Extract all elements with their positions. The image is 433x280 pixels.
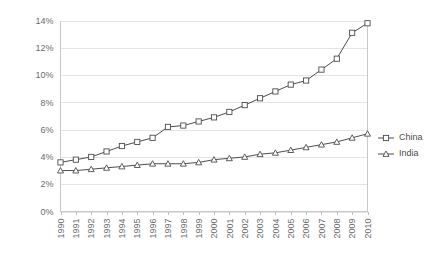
y-axis-tick-label: 0% [40, 207, 53, 217]
data-point-marker [196, 119, 201, 124]
y-axis-tick-label: 12% [35, 43, 53, 53]
data-point-marker [181, 123, 186, 128]
x-axis-tick-label: 1995 [132, 219, 142, 239]
x-axis-tick-label: 1990 [56, 219, 66, 239]
x-axis-tick-label: 2006 [301, 219, 311, 239]
data-point-marker [304, 78, 309, 83]
y-axis-tick-labels: 0%2%4%6%8%10%12%14% [35, 16, 53, 217]
data-series [58, 21, 371, 173]
data-point-marker [211, 115, 216, 120]
data-point-marker [257, 96, 262, 101]
x-axis-tick-label: 1998 [179, 219, 189, 239]
x-axis-tick-label: 1997 [163, 219, 173, 239]
data-point-marker [273, 89, 278, 94]
x-axis-tick-label: 1994 [117, 219, 127, 239]
legend-item-india[interactable]: India [378, 148, 419, 158]
x-axis-tick-label: 1991 [71, 219, 81, 239]
series-china [58, 21, 370, 165]
x-axis-tick-label: 2003 [255, 219, 265, 239]
data-point-marker [365, 21, 370, 26]
x-axis-tick-label: 1993 [102, 219, 112, 239]
data-point-marker [365, 131, 371, 136]
x-axis-tick-label: 1999 [194, 219, 204, 239]
legend-marker-swatch [383, 135, 388, 140]
y-axis-tick-label: 8% [40, 98, 53, 108]
legend-label: India [399, 148, 419, 158]
data-point-marker [119, 143, 124, 148]
data-point-marker [89, 154, 94, 159]
data-point-marker [73, 157, 78, 162]
y-axis-tick-label: 2% [40, 179, 53, 189]
x-axis-tick-label: 1992 [86, 219, 96, 239]
y-axis-tick-label: 6% [40, 125, 53, 135]
x-axis-tick-label: 2010 [363, 219, 373, 239]
legend-item-china[interactable]: China [378, 132, 423, 142]
y-axis-tick-label: 10% [35, 70, 53, 80]
x-axis-tick-label: 1996 [148, 219, 158, 239]
data-point-marker [150, 135, 155, 140]
data-point-marker [58, 160, 63, 165]
x-axis-tick-label: 2005 [286, 219, 296, 239]
chart-container: 0%2%4%6%8%10%12%14% 19901991199219931994… [0, 0, 433, 280]
chart-legend: ChinaIndia [378, 132, 423, 158]
x-axis-tick-label: 2007 [317, 219, 327, 239]
data-point-marker [334, 56, 339, 61]
x-axis-tick-label: 2001 [225, 219, 235, 239]
x-axis-tick-label: 2002 [240, 219, 250, 239]
data-point-marker [288, 82, 293, 87]
y-axis-tick-label: 14% [35, 16, 53, 26]
data-point-marker [227, 109, 232, 114]
legend-label: China [399, 132, 423, 142]
x-axis-tick-label: 2004 [271, 219, 281, 239]
x-axis-tick-label: 2000 [209, 219, 219, 239]
data-point-marker [135, 139, 140, 144]
data-point-marker [319, 67, 324, 72]
x-axis-tick-label: 2008 [332, 219, 342, 239]
y-axis-tick-label: 4% [40, 152, 53, 162]
x-axis-tick-label: 2009 [347, 219, 357, 239]
x-axis-tick-labels: 1990199119921993199419951996199719981999… [56, 219, 373, 239]
line-chart: 0%2%4%6%8%10%12%14% 19901991199219931994… [0, 0, 433, 280]
data-point-marker [104, 149, 109, 154]
data-point-marker [242, 102, 247, 107]
data-point-marker [350, 30, 355, 35]
data-point-marker [165, 124, 170, 129]
